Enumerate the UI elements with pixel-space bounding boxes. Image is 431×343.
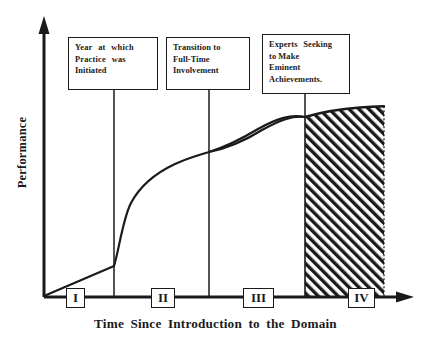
callout-1-line-1: Year at which: [75, 42, 152, 54]
callout-3-line-3: Eminent: [269, 62, 344, 74]
y-axis-title: Performance: [15, 93, 30, 213]
performance-stages-figure: Year at which Practice was Initiated Tra…: [0, 0, 431, 343]
callout-2-line-3: Involvement: [173, 65, 244, 77]
callout-2-line-1: Transition to: [173, 42, 244, 54]
phase-iv-hatched-region: [305, 106, 384, 297]
callout-1-line-3: Initiated: [75, 65, 152, 77]
callout-full-time-transition: Transition to Full-Time Involvement: [166, 37, 250, 90]
callout-3-line-1: Experts Seeking: [269, 39, 344, 51]
phase-label-iii: III: [243, 288, 274, 308]
callout-practice-initiated: Year at which Practice was Initiated: [68, 37, 158, 90]
phase-label-iv: IV: [348, 288, 375, 308]
y-axis: [39, 16, 50, 297]
callout-2-line-2: Full-Time: [173, 54, 244, 66]
callout-1-line-2: Practice was: [75, 54, 152, 66]
phase-label-i: I: [66, 288, 85, 308]
callout-3-line-2: to Make: [269, 51, 344, 63]
callout-eminent-achievements: Experts Seeking to Make Eminent Achievem…: [262, 34, 350, 94]
phase-label-ii: II: [151, 288, 175, 308]
x-axis-title: Time Since Introduction to the Domain: [0, 316, 431, 332]
callout-3-line-4: Achievements.: [269, 74, 344, 86]
